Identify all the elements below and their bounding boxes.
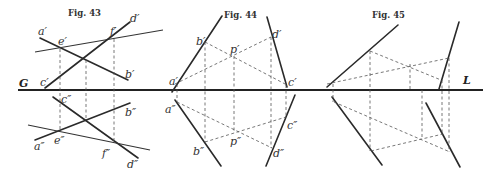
label-b1: b′ [125, 68, 135, 81]
line-upper-right [439, 22, 459, 89]
label-c2: c″ [287, 119, 298, 132]
dashed-lower-1 [334, 102, 450, 152]
label-c1: c′ [288, 76, 297, 89]
label-d1: d′ [272, 28, 282, 41]
line-c1d1 [45, 22, 130, 88]
fig43-title: Fig. 43 [68, 8, 101, 18]
label-f2: f″ [101, 147, 111, 160]
label-d2: d″ [273, 147, 285, 160]
line-e2f2 [28, 125, 150, 150]
label-d1: d′ [130, 12, 140, 25]
projection-diagram: G L Fig. 43 a′ e′ f′ d′ b′ c′ c″ b″ a″ e… [0, 0, 495, 183]
line-lower-right [426, 103, 460, 167]
label-a2: a″ [165, 103, 177, 116]
label-l: L [462, 74, 471, 87]
line-a1b1 [172, 16, 222, 92]
label-p2: p″ [230, 135, 242, 148]
label-p1: p′ [230, 43, 240, 56]
figure-44: Fig. 44 b′ p′ d′ a′ c′ a″ c″ p″ b″ d″ [165, 10, 298, 166]
dashed-b1c1 [205, 42, 287, 85]
fig44-title: Fig. 44 [224, 10, 257, 20]
label-b2: b″ [193, 145, 205, 158]
dashed-a2d2 [177, 102, 272, 148]
line-a1b1 [40, 38, 128, 80]
label-d2: d″ [127, 158, 139, 171]
label-e1: e′ [58, 35, 68, 48]
dashed-a1d1 [175, 37, 271, 84]
label-g: G [19, 77, 28, 90]
label-f1: f′ [109, 25, 117, 38]
line-upper-left [327, 25, 398, 87]
label-a1: a′ [38, 25, 48, 38]
fig45-title: Fig. 45 [372, 10, 405, 20]
label-e2: e″ [54, 134, 66, 147]
dashed-upper-2 [370, 51, 441, 80]
line-lower-left [332, 97, 382, 165]
label-c1: c′ [40, 76, 49, 89]
label-b1: b′ [196, 35, 206, 48]
label-b2: b″ [125, 106, 137, 119]
label-c2: c″ [61, 93, 72, 106]
ground-line: G L [18, 74, 483, 90]
dashed-lower-2 [371, 134, 443, 151]
label-a1: a′ [169, 75, 179, 88]
line-e1f1 [35, 30, 163, 52]
dashed-b2c2 [205, 117, 286, 142]
line-a2b2 [35, 103, 130, 140]
figure-45: Fig. 45 [327, 10, 460, 167]
label-a2: a″ [34, 140, 46, 153]
